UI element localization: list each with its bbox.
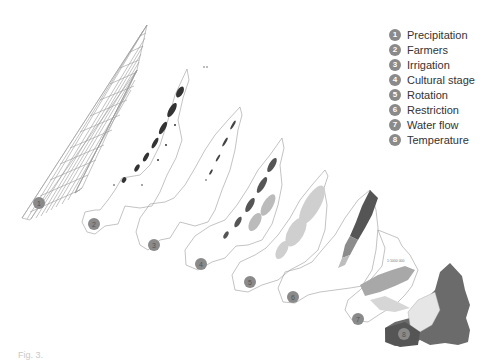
layer-rotation	[232, 170, 330, 292]
figure-caption: Fig. 3.	[18, 350, 43, 360]
legend-number-badge: 4	[389, 74, 401, 86]
layer-badges: 1 2 3 4 5 6 7 8	[33, 197, 410, 340]
legend-label: Farmers	[407, 44, 448, 56]
legend-item-temperature: 8 Temperature	[389, 132, 487, 147]
layer-irrigation	[136, 107, 242, 250]
badge-8: 8	[398, 328, 410, 340]
legend-item-restriction: 6 Restriction	[389, 102, 487, 117]
legend-label: Cultural stage	[407, 74, 475, 86]
badge-4: 4	[195, 258, 207, 270]
legend-label: Rotation	[407, 89, 448, 101]
legend-item-rotation: 5 Rotation	[389, 87, 487, 102]
svg-text:1: 1	[37, 200, 41, 207]
svg-text:2: 2	[92, 221, 96, 228]
badge-1: 1	[33, 197, 45, 209]
legend-number-badge: 6	[389, 104, 401, 116]
legend-number-badge: 2	[389, 44, 401, 56]
legend-number-badge: 7	[389, 119, 401, 131]
layer-farmers	[82, 66, 208, 234]
layer-precipitation-grid	[22, 25, 147, 220]
legend-number-badge: 1	[389, 29, 401, 41]
water-flow-scale-text: 1:1000 000	[387, 259, 405, 263]
legend-item-water-flow: 7 Water flow	[389, 117, 487, 132]
legend-label: Irrigation	[407, 59, 450, 71]
legend-number-badge: 8	[389, 134, 401, 146]
svg-text:4: 4	[199, 261, 203, 268]
legend-item-farmers: 2 Farmers	[389, 42, 487, 57]
badge-3: 3	[148, 239, 160, 251]
legend-label: Precipitation	[407, 29, 468, 41]
svg-text:8: 8	[402, 331, 406, 338]
legend-label: Water flow	[407, 119, 459, 131]
legend-item-precipitation: 1 Precipitation	[389, 27, 487, 42]
badge-7: 7	[352, 313, 364, 325]
badge-5: 5	[244, 276, 256, 288]
badge-6: 6	[287, 291, 299, 303]
svg-text:6: 6	[291, 294, 295, 301]
legend-label: Temperature	[407, 134, 469, 146]
legend-item-cultural-stage: 4 Cultural stage	[389, 72, 487, 87]
legend-number-badge: 5	[389, 89, 401, 101]
legend-item-irrigation: 3 Irrigation	[389, 57, 487, 72]
svg-text:7: 7	[356, 316, 360, 323]
legend-label: Restriction	[407, 104, 459, 116]
legend: 1 Precipitation 2 Farmers 3 Irrigation 4…	[389, 27, 487, 147]
svg-text:3: 3	[152, 242, 156, 249]
svg-text:5: 5	[248, 279, 252, 286]
legend-number-badge: 3	[389, 59, 401, 71]
layer-cultural-stage	[185, 138, 284, 270]
badge-2: 2	[88, 218, 100, 230]
